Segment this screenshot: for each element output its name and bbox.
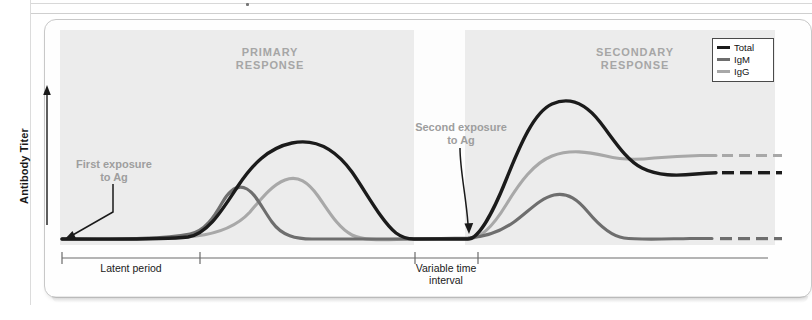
first-exposure-line1: First exposure	[62, 158, 166, 171]
first-exposure-annotation: First exposure to Ag	[62, 158, 166, 184]
legend-item-total: Total	[717, 42, 769, 53]
second-exposure-line1: Second exposure	[401, 121, 521, 134]
second-exposure-annotation: Second exposure to Ag	[401, 121, 521, 147]
secondary-response-label-line1: SECONDARY	[560, 46, 710, 59]
first-exposure-line2: to Ag	[62, 171, 166, 184]
legend-label-igg: IgG	[734, 66, 749, 77]
chart-legend: Total IgM IgG	[712, 38, 774, 82]
legend-label-igm: IgM	[734, 54, 750, 65]
second-exposure-line2: to Ag	[401, 134, 521, 147]
variable-interval-line2: interval	[398, 274, 494, 286]
latent-period-label: Latent period	[62, 262, 200, 274]
y-axis-arrow-icon	[43, 85, 51, 225]
secondary-response-label: SECONDARY RESPONSE	[560, 46, 710, 72]
primary-response-label-line2: RESPONSE	[170, 59, 370, 72]
primary-response-label-line1: PRIMARY	[170, 46, 370, 59]
legend-item-igg: IgG	[717, 66, 769, 77]
variable-interval-line1: Variable time	[398, 262, 494, 274]
legend-item-igm: IgM	[717, 54, 769, 65]
y-axis-title: Antibody Titer	[18, 118, 30, 214]
legend-swatch-igg-icon	[717, 70, 730, 73]
primary-response-label: PRIMARY RESPONSE	[170, 46, 370, 72]
variable-interval-label: Variable time interval	[398, 262, 494, 286]
legend-swatch-igm-icon	[717, 58, 730, 61]
legend-swatch-total-icon	[717, 46, 730, 49]
secondary-response-label-line2: RESPONSE	[560, 59, 710, 72]
legend-label-total: Total	[734, 42, 754, 53]
